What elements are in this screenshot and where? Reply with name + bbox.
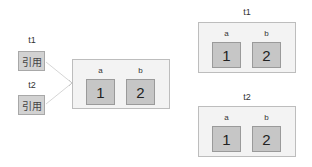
value-text: 1	[96, 84, 104, 101]
object-t1: a b 1 2	[198, 22, 296, 73]
reference-box-t2: 引用	[18, 95, 45, 115]
value-cell-b: 2	[252, 126, 281, 152]
value-cell-a: 1	[212, 126, 241, 152]
key-a: a	[86, 66, 115, 75]
value-cell-b: 2	[126, 79, 155, 105]
value-cell-a: 1	[86, 79, 115, 105]
value-text: 2	[262, 131, 270, 148]
value-text: 1	[222, 47, 230, 64]
var-label-t2: t2	[17, 80, 47, 90]
value-text: 2	[262, 47, 270, 64]
key-b: b	[252, 113, 281, 122]
shared-object: a b 1 2	[72, 59, 170, 109]
reference-label: 引用	[22, 54, 42, 69]
var-label-t2-copy: t2	[232, 92, 262, 102]
key-a: a	[212, 113, 241, 122]
key-b: b	[126, 66, 155, 75]
reference-box-t1: 引用	[18, 51, 45, 71]
value-cell-b: 2	[252, 42, 281, 68]
key-b: b	[252, 29, 281, 38]
object-t2: a b 1 2	[198, 106, 296, 157]
var-label-t1: t1	[17, 35, 47, 45]
reference-label: 引用	[22, 98, 42, 113]
var-label-t1-copy: t1	[232, 7, 262, 17]
value-cell-a: 1	[212, 42, 241, 68]
value-text: 2	[136, 84, 144, 101]
key-a: a	[212, 29, 241, 38]
value-text: 1	[222, 131, 230, 148]
